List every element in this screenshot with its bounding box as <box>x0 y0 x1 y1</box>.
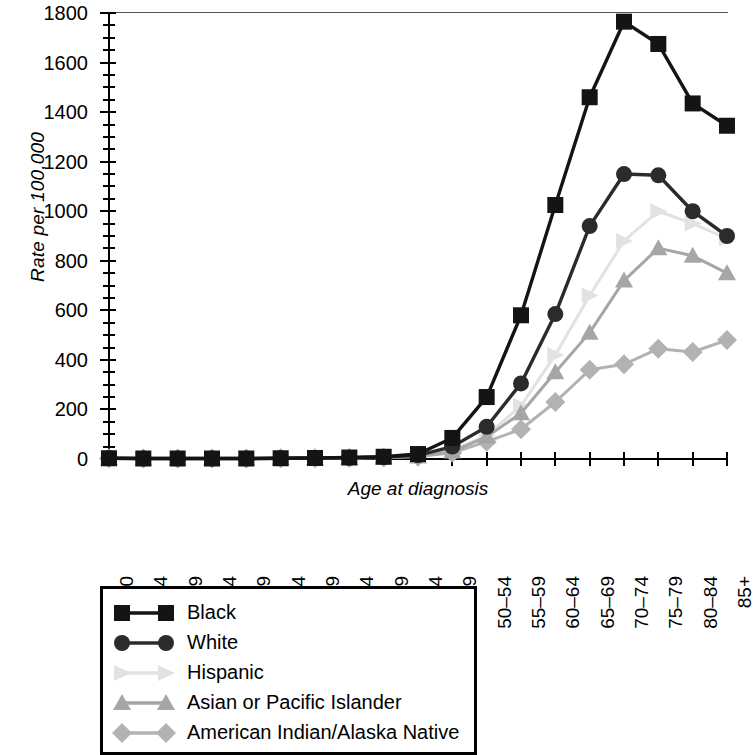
series-asian-or-pacific-islander <box>100 239 736 465</box>
data-point-marker <box>614 354 634 374</box>
legend-key-triangle-icon <box>111 688 179 718</box>
legend-label: Hispanic <box>187 661 264 684</box>
data-point-marker <box>444 430 460 446</box>
x-tick-label: 80–84 <box>700 576 722 629</box>
data-point-marker <box>158 635 174 651</box>
data-point-marker <box>513 307 529 323</box>
series-line <box>109 211 727 458</box>
data-point-marker <box>650 203 667 219</box>
data-point-marker <box>410 446 426 462</box>
series-line <box>109 174 727 458</box>
series-line <box>109 22 727 459</box>
data-point-marker <box>156 723 176 743</box>
legend-key-circle-icon <box>111 628 179 658</box>
data-point-marker <box>513 375 529 391</box>
data-point-marker <box>648 339 668 359</box>
data-point-marker <box>158 665 175 681</box>
legend-item[interactable]: White <box>111 628 474 658</box>
data-point-marker <box>547 347 564 363</box>
x-tick-label: 70–74 <box>631 576 653 629</box>
legend-item[interactable]: Hispanic <box>111 658 474 688</box>
data-point-marker <box>376 449 392 465</box>
data-point-marker <box>170 451 186 467</box>
legend-label: Black <box>187 601 236 624</box>
x-tick-label: 55–59 <box>528 576 550 629</box>
legend-key-diamond-icon <box>111 718 179 748</box>
x-tick-label: 65–69 <box>597 576 619 629</box>
x-tick-label: 85+ <box>734 576 756 608</box>
data-point-marker <box>238 451 254 467</box>
data-point-marker <box>307 450 323 466</box>
data-point-marker <box>114 665 131 681</box>
series-black <box>101 14 735 467</box>
data-point-marker <box>616 166 632 182</box>
data-point-marker <box>114 605 130 621</box>
data-point-marker <box>273 450 289 466</box>
data-point-marker <box>547 197 563 213</box>
series-hispanic <box>101 203 736 466</box>
data-point-marker <box>582 287 599 303</box>
data-point-marker <box>582 218 598 234</box>
series-white <box>101 166 735 466</box>
data-point-marker <box>547 306 563 322</box>
series-line <box>109 340 727 458</box>
data-point-marker <box>581 324 599 340</box>
x-axis-category-labels: 0001–0405–0910–1415–1920–2425–2930–3435–… <box>0 500 745 580</box>
legend-label: White <box>187 631 238 654</box>
data-point-marker <box>650 36 666 52</box>
x-tick-label: 50–54 <box>494 576 516 629</box>
data-point-marker <box>114 635 130 651</box>
series-line <box>109 248 727 458</box>
data-point-marker <box>650 167 666 183</box>
data-point-marker <box>649 239 667 255</box>
x-tick-label: 60–64 <box>562 576 584 629</box>
data-point-marker <box>101 450 117 466</box>
data-point-marker <box>719 118 735 134</box>
series-plot <box>0 0 745 470</box>
data-point-marker <box>341 450 357 466</box>
x-tick-label: 75–79 <box>665 576 687 629</box>
data-point-marker <box>685 95 701 111</box>
x-axis-title: Age at diagnosis <box>108 478 728 500</box>
legend-item[interactable]: Asian or Pacific Islander <box>111 688 474 718</box>
data-point-marker <box>112 723 132 743</box>
data-point-marker <box>158 605 174 621</box>
data-point-marker <box>479 389 495 405</box>
legend-item[interactable]: Black <box>111 598 474 628</box>
legend-key-square-icon <box>111 598 179 628</box>
data-point-marker <box>717 330 737 350</box>
legend-label: Asian or Pacific Islander <box>187 691 402 714</box>
data-point-marker <box>582 89 598 105</box>
data-point-marker <box>718 264 736 280</box>
chart-legend: BlackWhiteHispanicAsian or Pacific Islan… <box>100 586 477 755</box>
legend-key-triangle-right-icon <box>111 658 179 688</box>
data-point-marker <box>135 451 151 467</box>
data-point-marker <box>616 14 632 30</box>
data-point-marker <box>683 342 703 362</box>
plot-area: Rate per 100,000 02004006008001000120014… <box>0 0 745 470</box>
data-point-marker <box>719 228 735 244</box>
data-point-marker <box>479 419 495 435</box>
legend-item[interactable]: American Indian/Alaska Native <box>111 718 474 748</box>
data-point-marker <box>204 451 220 467</box>
data-point-marker <box>685 203 701 219</box>
legend-label: American Indian/Alaska Native <box>187 721 459 744</box>
